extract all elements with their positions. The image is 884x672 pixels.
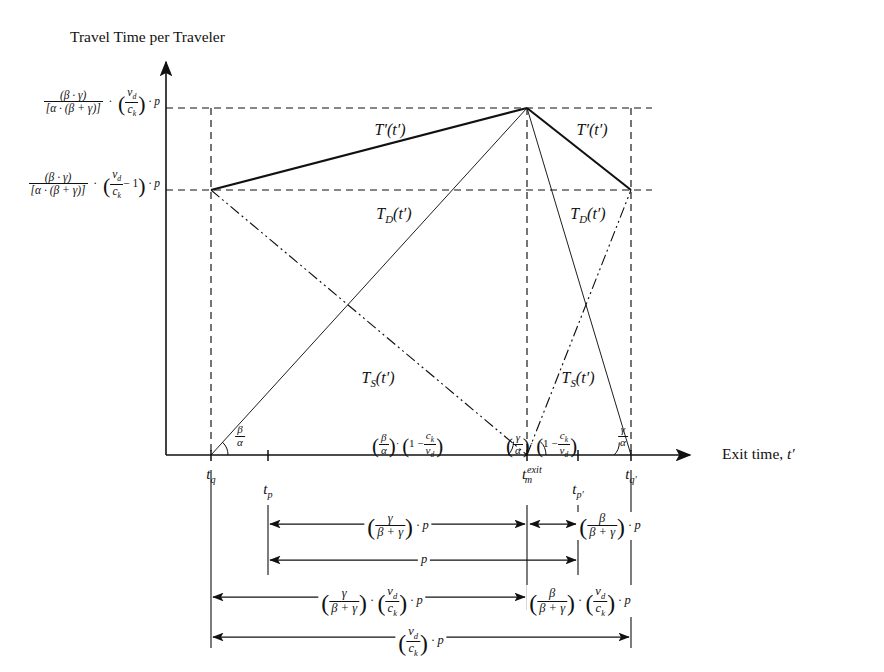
dim5-fraction-2: vd ck bbox=[593, 585, 607, 617]
dim2-fraction: β β + γ bbox=[587, 512, 617, 540]
y-axis-title: Travel Time per Traveler bbox=[70, 28, 225, 46]
curve-label-T-S-right: TS(t′) bbox=[562, 369, 595, 389]
y-upper-tail: · p bbox=[149, 95, 161, 107]
dim4-fraction-2: vd ck bbox=[385, 585, 399, 617]
angle-3-one-minus: 1 − bbox=[543, 437, 557, 449]
dimension-label-p: p bbox=[418, 552, 430, 567]
x-tick-label-tp: tp bbox=[263, 481, 272, 500]
angle-2-f2-num: ck bbox=[424, 430, 437, 445]
dimension-label-vd-p: ( vd ck ) · p bbox=[395, 625, 446, 657]
y-upper-dot: · bbox=[106, 95, 116, 107]
curve-T-prime-left-segment bbox=[211, 108, 527, 190]
y-lower-fraction-2: vd ck bbox=[110, 168, 123, 200]
y-lower-minus-one: − 1 bbox=[123, 177, 138, 189]
y-tick-label-lower: (β · γ) [α · (β + γ)] · ( vd ck − 1) · p bbox=[0, 168, 160, 200]
dim5-fraction: β β + γ bbox=[537, 587, 567, 615]
dim5-f2-num: vd bbox=[593, 585, 607, 602]
curve-T-prime bbox=[211, 108, 631, 190]
curve-T-D bbox=[211, 108, 631, 455]
y-upper-denominator: [α · (β + γ)] bbox=[44, 102, 103, 114]
dimension-label-gamma-p: ( γ β + γ ) · p bbox=[364, 512, 431, 540]
axis-lines bbox=[166, 62, 690, 455]
angle-label-gamma-alpha: γ α bbox=[618, 424, 628, 448]
y-lower-fraction-1: (β · γ) [α · (β + γ)] bbox=[29, 171, 88, 196]
dim2-tail: · p bbox=[628, 518, 641, 532]
angle-label-beta-alpha: β α bbox=[235, 424, 245, 448]
x-tick-label-tq: tq bbox=[206, 466, 215, 485]
curve-T-D-right-segment bbox=[527, 108, 631, 455]
curve-label-T-D-right: TD(t′) bbox=[570, 205, 605, 225]
dim4-fraction: γ β + γ bbox=[329, 587, 359, 615]
y-upper-fraction-1: (β · γ) [α · (β + γ)] bbox=[44, 89, 103, 114]
dimension-label-gamma-vd-p: ( γ β + γ ) · ( vd ck ) · p bbox=[318, 585, 425, 617]
dimension-label-beta-p: ( β β + γ ) · p bbox=[576, 512, 643, 540]
angle-2-one-minus: 1 − bbox=[409, 437, 423, 449]
x-tick-label-tq-prime: tq′ bbox=[625, 466, 637, 485]
x-axis-title: Exit time, t′ bbox=[722, 445, 795, 463]
angle-label-gamma-alpha-scaled: ( γ α )· (1 − ck vd ) bbox=[506, 430, 577, 459]
y-lower-f2-den: ck bbox=[110, 185, 123, 201]
angle-3-fraction-2: ck vd bbox=[558, 430, 571, 459]
angle-label-beta-alpha-scaled: ( β α )· (1 − ck vd ) bbox=[372, 430, 443, 459]
y-upper-f2-den: ck bbox=[125, 103, 138, 119]
dim4-dot: · bbox=[370, 593, 374, 607]
dim6-tail: · p bbox=[431, 633, 444, 647]
dim6-f2-num: vd bbox=[406, 625, 420, 642]
x-axis-title-text: Exit time, bbox=[722, 445, 787, 462]
y-upper-fraction-2: vd ck bbox=[125, 86, 138, 118]
curve-label-T-D-left: TD(t′) bbox=[376, 205, 411, 225]
dim5-tail: · p bbox=[618, 593, 631, 607]
arc-beta-alpha bbox=[223, 442, 229, 455]
dim6-f2-den: ck bbox=[406, 642, 420, 658]
y-lower-denominator: [α · (β + γ)] bbox=[29, 184, 88, 196]
dim4-f2-den: ck bbox=[385, 602, 399, 618]
dimension-label-beta-vd-p: ( β β + γ ) · ( vd ck ) · p bbox=[526, 585, 633, 617]
dimension-arrows bbox=[213, 524, 629, 637]
angle-1-fraction: β α bbox=[235, 424, 245, 448]
dim5-dot: · bbox=[578, 593, 582, 607]
y-tick-label-upper: (β · γ) [α · (β + γ)] · ( vd ck ) · p bbox=[0, 86, 160, 118]
figure-canvas: Travel Time per Traveler Exit time, t′ (… bbox=[0, 0, 884, 672]
curve-T-S-right-segment bbox=[527, 190, 631, 455]
angle-3-dot: · bbox=[530, 437, 534, 449]
curve-T-D-left-segment bbox=[211, 108, 527, 455]
curve-T-S-left-segment bbox=[211, 190, 527, 455]
y-lower-numerator: (β · γ) bbox=[29, 171, 88, 184]
y-upper-numerator: (β · γ) bbox=[44, 89, 103, 102]
angle-3-f2-num: ck bbox=[558, 430, 571, 445]
curve-label-T-S-left: TS(t′) bbox=[362, 369, 395, 389]
dim6-fraction: vd ck bbox=[406, 625, 420, 657]
curve-label-T-prime-right: T′(t′) bbox=[576, 121, 607, 139]
y-lower-dot: · bbox=[90, 177, 100, 189]
angle-2-f2-den: vd bbox=[424, 445, 437, 459]
angle-2-fraction: β α bbox=[379, 432, 389, 456]
dim1-tail: · p bbox=[416, 518, 429, 532]
y-lower-f2-num: vd bbox=[110, 168, 123, 185]
x-tick-label-tm-exit: texitm bbox=[522, 464, 532, 485]
angle-3-f2-den: vd bbox=[558, 445, 571, 459]
dim5-f2-den: ck bbox=[593, 602, 607, 618]
angle-2-dot: · bbox=[396, 437, 400, 449]
x-axis-title-var: t′ bbox=[787, 445, 795, 462]
y-upper-f2-num: vd bbox=[125, 86, 138, 103]
angle-4-fraction: γ α bbox=[618, 424, 628, 448]
curve-label-T-prime-left: T′(t′) bbox=[374, 121, 405, 139]
dim4-f2-num: vd bbox=[385, 585, 399, 602]
y-lower-tail: · p bbox=[149, 177, 161, 189]
dim4-tail: · p bbox=[410, 593, 423, 607]
dim1-fraction: γ β + γ bbox=[375, 512, 405, 540]
angle-3-fraction: γ α bbox=[513, 432, 523, 456]
curve-T-S bbox=[211, 190, 631, 455]
angle-2-fraction-2: ck vd bbox=[424, 430, 437, 459]
x-tick-label-tp-prime: tp′ bbox=[572, 481, 584, 500]
